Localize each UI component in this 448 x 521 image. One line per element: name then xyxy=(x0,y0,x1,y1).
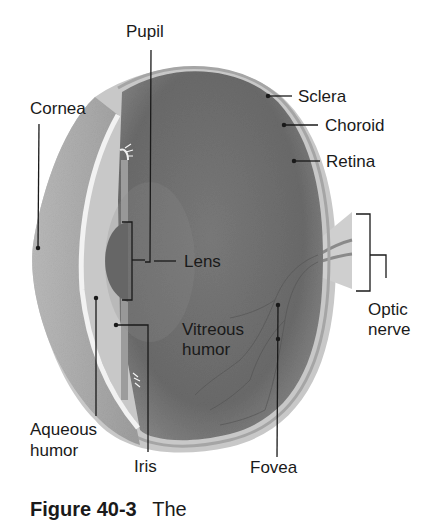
caption-text: The xyxy=(152,498,186,520)
label-aqueous-line1: Aqueous xyxy=(30,420,97,439)
label-optic-line1: Optic xyxy=(368,300,408,319)
label-fovea: Fovea xyxy=(250,458,297,477)
label-aqueous-line2: humor xyxy=(30,441,78,460)
label-sclera: Sclera xyxy=(298,87,346,106)
optic-nerve-leader xyxy=(370,255,386,278)
label-vitreous-line2: humor xyxy=(182,340,230,359)
label-optic-line2: nerve xyxy=(368,320,411,339)
label-pupil: Pupil xyxy=(126,22,164,41)
label-iris: Iris xyxy=(134,457,157,476)
optic-nerve-bracket xyxy=(356,214,370,291)
figure-caption: Figure 40-3 The xyxy=(30,498,187,521)
label-vitreous-line1: Vitreous xyxy=(182,320,244,339)
label-retina: Retina xyxy=(326,152,375,171)
caption-figure-number: Figure 40-3 xyxy=(30,498,137,520)
label-choroid: Choroid xyxy=(325,116,385,135)
label-lens: Lens xyxy=(184,252,221,271)
label-cornea: Cornea xyxy=(30,99,86,118)
